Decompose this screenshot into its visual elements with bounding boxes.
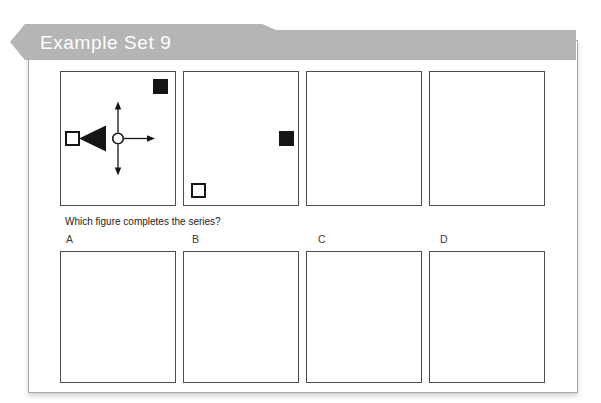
option-panel-d[interactable] <box>429 251 545 383</box>
option-label-d: D <box>440 233 448 245</box>
question-text: Which figure completes the series? <box>65 216 221 227</box>
option-label-a: A <box>66 233 73 245</box>
series-panel-3 <box>306 71 422 206</box>
option-figure-b <box>184 252 298 382</box>
option-figure-a <box>61 252 175 382</box>
banner-title: Example Set 9 <box>40 32 171 54</box>
series-figure-4 <box>430 72 544 205</box>
banner-ribbon: Example Set 9 <box>10 23 576 60</box>
worksheet-page: Example Set 9 Which figure completes the… <box>0 0 601 403</box>
series-figure-3 <box>307 72 421 205</box>
series-figure-2 <box>184 72 298 205</box>
option-figure-c <box>307 252 421 382</box>
series-figure-1 <box>61 72 175 205</box>
option-panel-a[interactable] <box>60 251 176 383</box>
option-panel-b[interactable] <box>183 251 299 383</box>
series-panel-2 <box>183 71 299 206</box>
series-panel-4 <box>429 71 545 206</box>
option-figure-d <box>430 252 544 382</box>
option-label-b: B <box>192 233 199 245</box>
series-panel-1 <box>60 71 176 206</box>
option-panel-c[interactable] <box>306 251 422 383</box>
option-label-c: C <box>318 233 326 245</box>
